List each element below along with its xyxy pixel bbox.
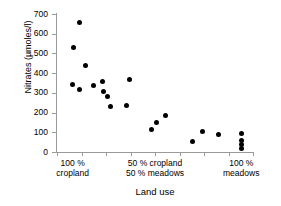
x-axis-tick [106,152,107,156]
data-point [91,83,96,88]
data-point [101,89,106,94]
y-axis-tick-label: 300 [22,88,48,97]
data-point [216,132,221,137]
y-axis-tick-label-wrap: 600 [22,29,48,38]
x-axis-category-label: 100 % cropland [28,158,118,178]
x-axis-tick [204,152,205,156]
data-point [77,87,82,92]
x-axis-tick [57,152,58,156]
y-axis-tick-label-wrap: 0 [22,148,48,157]
x-axis-title: Land use [57,186,253,197]
data-point [77,20,82,25]
data-point [200,129,205,134]
data-point [239,146,244,151]
data-point [70,82,75,87]
data-point [83,63,88,68]
y-axis-tick-label-wrap: 200 [22,108,48,117]
y-axis-tick-label: 200 [22,108,48,117]
x-axis-tick [253,152,254,156]
data-point [127,77,132,82]
x-axis-tick [82,152,83,156]
data-point [105,94,110,99]
y-axis-tick-label: 400 [22,69,48,78]
x-axis-category-label: 50 % cropland 50 % meadows [110,158,200,178]
data-point [239,131,244,136]
nitrates-vs-land-use-scatter-chart: Nitrates (µmoles/l) 70060050040030020010… [0,0,281,206]
data-point [163,113,168,118]
x-axis-tick [180,152,181,156]
x-axis-category-label: 100 % meadows [196,158,281,178]
y-axis-tick-label-wrap: 400 [22,69,48,78]
data-point [154,120,159,125]
x-axis-tick [131,152,132,156]
plot-area [57,14,253,152]
x-axis-tick [155,152,156,156]
data-point [124,103,129,108]
data-point [108,104,113,109]
y-axis-tick-label: 100 [22,128,48,137]
y-axis-tick-label: 700 [22,10,48,19]
data-point [190,139,195,144]
y-axis-tick-label: 600 [22,29,48,38]
y-axis-tick-label-wrap: 300 [22,88,48,97]
y-axis-tick-label-wrap: 100 [22,128,48,137]
data-point [149,127,154,132]
y-axis-tick-label-wrap: 500 [22,49,48,58]
data-point [100,79,105,84]
y-axis-tick-label: 0 [22,148,48,157]
y-axis-tick-label: 500 [22,49,48,58]
data-point [71,45,76,50]
y-axis-tick-label-wrap: 700 [22,10,48,19]
x-axis-tick [229,152,230,156]
